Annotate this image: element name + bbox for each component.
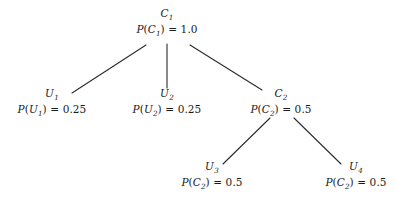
prob-equals-u2: = [165,103,174,115]
prob-paren-close-u1: ) [43,103,47,115]
prob-equals-c2: = [282,103,291,115]
node-label-symbol-u4: U [349,160,358,172]
prob-value-u2: 0.25 [178,103,202,115]
probability-tree-diagram: C1P(C1) = 1.0U1P(U1) = 0.25U2P(U2) = 0.2… [0,0,412,205]
prob-equals-u4: = [357,176,366,188]
node-probability-c1: P(C1) = 1.0 [136,24,197,38]
tree-edge-c2-u3 [223,118,270,164]
prob-equals-u3: = [213,176,222,188]
tree-node-u3: U3P(C2) = 0.5 [181,161,242,191]
node-probability-u1: P(U1) = 0.25 [18,104,87,118]
prob-paren-close-c2: ) [275,103,279,115]
tree-node-c1: C1P(C1) = 1.0 [136,8,197,38]
prob-equals-u1: = [50,103,59,115]
prob-value-c1: 1.0 [181,23,198,35]
node-probability-u4: P(C2) = 0.5 [325,177,386,191]
prob-arg-c2: C [262,103,270,115]
prob-arg-u3: C [193,176,201,188]
node-label-u2: U2 [133,88,202,102]
prob-arg-u2: U [144,103,153,115]
tree-node-u4: U4P(C2) = 0.5 [325,161,386,191]
prob-arg-u4: C [337,176,345,188]
node-label-symbol-u2: U [160,87,169,99]
tree-node-c2: C2P(C2) = 0.5 [250,88,311,118]
node-probability-u2: P(U2) = 0.25 [133,104,202,118]
prob-paren-close-u4: ) [350,176,354,188]
prob-paren-close-u3: ) [206,176,210,188]
tree-edge-c2-u4 [294,118,341,164]
prob-equals-c1: = [168,23,177,35]
node-label-u4: U4 [325,161,386,175]
node-label-subscript-u1: 1 [54,93,59,102]
node-probability-u3: P(C2) = 0.5 [181,177,242,191]
prob-value-u3: 0.5 [226,176,243,188]
node-probability-c2: P(C2) = 0.5 [250,104,311,118]
node-label-c1: C1 [136,8,197,22]
tree-node-u2: U2P(U2) = 0.25 [133,88,202,118]
node-label-symbol-u1: U [45,87,54,99]
prob-value-c2: 0.5 [295,103,312,115]
tree-edge-c1-u1 [72,45,146,93]
prob-value-u1: 0.25 [63,103,87,115]
prob-arg-u1: U [29,103,38,115]
tree-node-u1: U1P(U1) = 0.25 [18,88,87,118]
node-label-c2: C2 [250,88,311,102]
node-label-u1: U1 [18,88,87,102]
node-label-u3: U3 [181,161,242,175]
node-label-subscript-c2: 2 [283,93,288,102]
node-label-subscript-u2: 2 [169,93,174,102]
node-label-subscript-c1: 1 [169,13,174,22]
node-label-symbol-u3: U [205,160,214,172]
prob-paren-close-u2: ) [158,103,162,115]
prob-paren-close-c1: ) [161,23,165,35]
node-label-subscript-u4: 4 [358,166,363,175]
tree-edge-c1-c2 [190,45,262,90]
prob-value-u4: 0.5 [370,176,387,188]
node-label-subscript-u3: 3 [214,166,219,175]
prob-arg-c1: C [148,23,156,35]
